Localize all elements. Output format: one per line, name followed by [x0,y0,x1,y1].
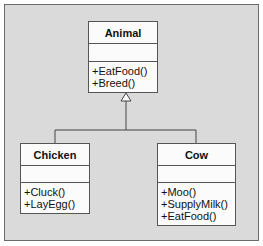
method: +Breed() [92,77,157,89]
class-methods: +Moo() +SupplyMilk() +EatFood() [158,183,235,222]
class-attributes [158,166,235,183]
method: +Moo() [161,186,235,198]
class-methods: +EatFood() +Breed() [89,62,157,89]
class-methods: +Cluck() +LayEgg() [21,183,89,210]
method: +EatFood() [161,210,235,222]
class-cow: Cow +Moo() +SupplyMilk() +EatFood() [157,143,236,226]
class-attributes [21,166,89,183]
class-name: Animal [89,22,157,44]
class-animal: Animal +EatFood() +Breed() [88,21,158,93]
class-name: Chicken [21,144,89,166]
method: +Cluck() [24,186,89,198]
method: +LayEgg() [24,198,89,210]
method: +EatFood() [92,65,157,77]
class-attributes [89,44,157,62]
class-chicken: Chicken +Cluck() +LayEgg() [20,143,90,214]
generalization-arrow-icon [121,93,131,101]
method: +SupplyMilk() [161,198,235,210]
class-name: Cow [158,144,235,166]
